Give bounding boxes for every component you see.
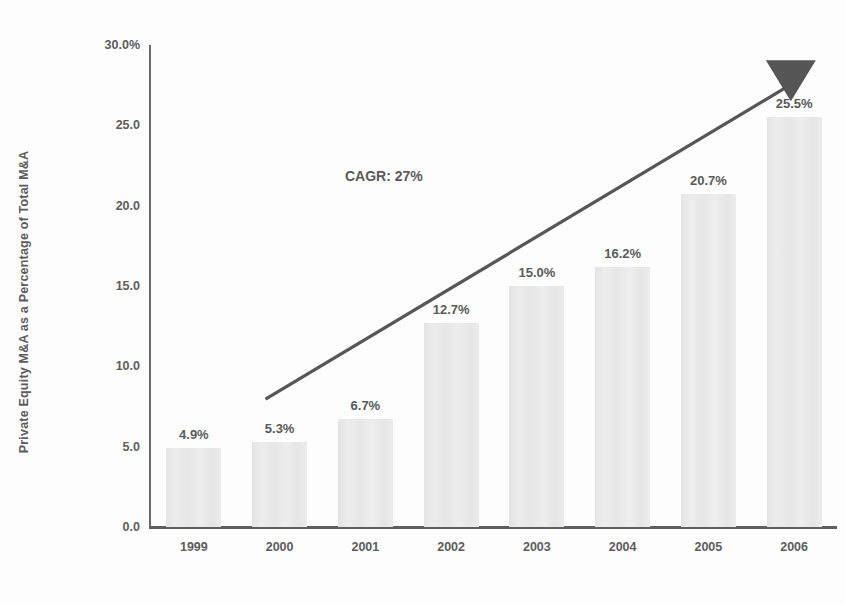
bar[interactable] xyxy=(338,419,393,527)
x-axis-tick-labels: 19992000200120022003200420052006 xyxy=(151,540,837,566)
x-axis-tick-label: 2001 xyxy=(323,540,409,554)
y-axis-tick-label: 10.0 xyxy=(60,359,140,373)
x-axis-tick-label: 2006 xyxy=(751,540,837,554)
bar[interactable] xyxy=(595,267,650,527)
y-axis-title: Private Equity M&A as a Percentage of To… xyxy=(0,0,48,604)
bar-group: 12.7% xyxy=(408,40,494,527)
bar-value-label: 15.0% xyxy=(494,265,580,280)
y-axis-tick-label: 30.0% xyxy=(60,38,140,52)
bar[interactable] xyxy=(681,194,736,527)
bar-group: 20.7% xyxy=(666,40,752,527)
chart-container: Private Equity M&A as a Percentage of To… xyxy=(0,0,845,604)
y-axis-tick-label: 15.0 xyxy=(60,279,140,293)
bar-value-label: 4.9% xyxy=(151,427,237,442)
bar[interactable] xyxy=(509,286,564,527)
bar-group: 6.7% xyxy=(323,40,409,527)
bar-value-label: 16.2% xyxy=(580,246,666,261)
y-axis-tick-labels: 30.0%25.020.015.010.05.00.0 xyxy=(60,0,140,604)
y-axis-tick-label: 0.0 xyxy=(60,520,140,534)
y-axis-tick-label: 25.0 xyxy=(60,118,140,132)
bar-value-label: 20.7% xyxy=(666,173,752,188)
bar-group: 4.9% xyxy=(151,40,237,527)
plot-area: 4.9%5.3%6.7%12.7%15.0%16.2%20.7%25.5% xyxy=(151,40,837,527)
y-axis-tick-label: 5.0 xyxy=(60,440,140,454)
bar-value-label: 6.7% xyxy=(323,398,409,413)
bar[interactable] xyxy=(767,117,822,527)
bar-group: 16.2% xyxy=(580,40,666,527)
x-axis-tick-label: 1999 xyxy=(151,540,237,554)
bar-group: 5.3% xyxy=(237,40,323,527)
bar[interactable] xyxy=(166,448,221,527)
x-axis-tick-label: 2002 xyxy=(408,540,494,554)
bar-group: 15.0% xyxy=(494,40,580,527)
x-axis-tick-label: 2000 xyxy=(237,540,323,554)
bar[interactable] xyxy=(252,442,307,527)
cagr-annotation: CAGR: 27% xyxy=(345,168,423,184)
x-axis-tick-label: 2005 xyxy=(666,540,752,554)
x-axis-tick-label: 2003 xyxy=(494,540,580,554)
bar-value-label: 25.5% xyxy=(751,96,837,111)
x-axis-tick-label: 2004 xyxy=(580,540,666,554)
bar[interactable] xyxy=(424,323,479,527)
bar-value-label: 12.7% xyxy=(408,302,494,317)
bar-value-label: 5.3% xyxy=(237,421,323,436)
y-axis-tick-label: 20.0 xyxy=(60,199,140,213)
bar-group: 25.5% xyxy=(751,40,837,527)
